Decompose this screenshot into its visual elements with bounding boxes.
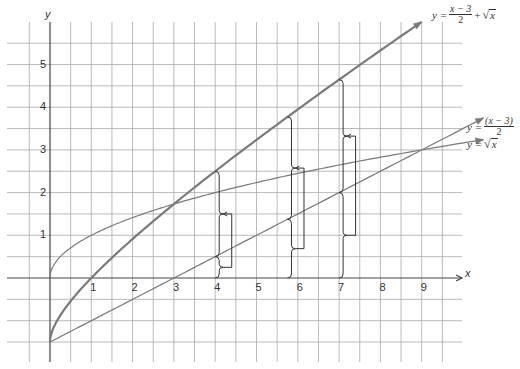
brace-linear-part xyxy=(287,219,295,278)
label-sqrt-curve: y = √x xyxy=(467,138,498,150)
x-tick-label: 3 xyxy=(173,281,179,293)
y-tick-label: 4 xyxy=(40,100,46,112)
y-tick-label: 1 xyxy=(40,228,46,240)
eq-lhs: y = xyxy=(467,138,482,150)
grid-lines xyxy=(7,22,462,362)
y-tick-label: 5 xyxy=(40,58,46,70)
fraction-denominator: 2 xyxy=(458,15,463,25)
label-linear-curve: y = (x − 3) 2 xyxy=(467,116,514,137)
fraction-denominator: 2 xyxy=(496,127,501,137)
bracket-connector xyxy=(295,168,304,249)
x-tick-label: 5 xyxy=(256,281,262,293)
curves xyxy=(50,22,484,342)
sqrt-expression: √x xyxy=(484,138,497,150)
plus-sign: + xyxy=(474,9,480,21)
y-axis-label: y xyxy=(45,8,51,20)
y-tick-label: 3 xyxy=(40,143,46,155)
sqrt-icon: √ xyxy=(482,10,489,21)
x-tick-label: 8 xyxy=(379,281,385,293)
sum-brackets xyxy=(215,80,355,278)
x-tick-label: 4 xyxy=(214,281,220,293)
graph-canvas xyxy=(0,0,520,369)
label-sum-curve: y = x − 3 2 + √x xyxy=(432,4,496,25)
brace-sqrt-part xyxy=(339,80,347,193)
x-tick-label: 9 xyxy=(421,281,427,293)
eq-lhs: y = xyxy=(432,9,447,21)
y-tick-label: 2 xyxy=(40,186,46,198)
radicand: x xyxy=(489,9,496,21)
sqrt-expression: √x xyxy=(482,9,495,21)
radicand: x xyxy=(491,138,498,150)
sqrt-icon: √ xyxy=(484,139,491,150)
x-axis-label: x xyxy=(465,267,471,279)
brace-linear-part xyxy=(215,257,223,278)
curve-sqrt xyxy=(50,140,484,278)
x-tick-label: 2 xyxy=(132,281,138,293)
x-tick-label: 1 xyxy=(90,281,96,293)
x-tick-label: 6 xyxy=(297,281,303,293)
axes xyxy=(7,22,462,362)
x-tick-label: 7 xyxy=(338,281,344,293)
curve-linear xyxy=(50,118,484,342)
bracket-connector xyxy=(223,214,232,267)
eq-lhs: y = xyxy=(467,121,482,133)
brace-sqrt-part xyxy=(287,117,295,219)
fraction: x − 3 2 xyxy=(449,4,472,25)
fraction: (x − 3) 2 xyxy=(484,116,514,137)
